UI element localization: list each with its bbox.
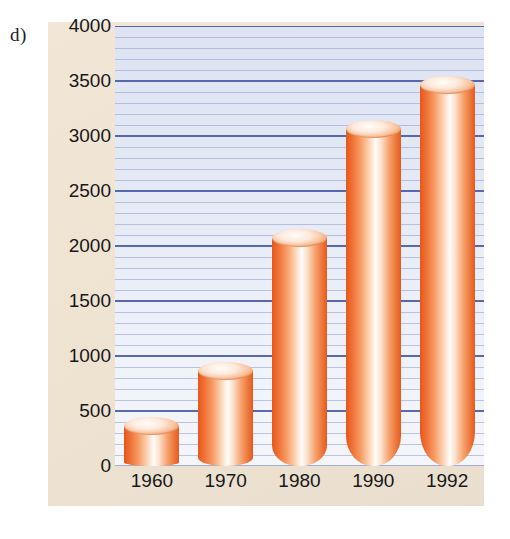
- x-axis-tick-labels: 19601970198019901992: [115, 470, 484, 502]
- y-axis-tick-label: 1500: [69, 290, 111, 312]
- x-axis-tick-label: 1980: [278, 470, 320, 492]
- bar-series: [115, 26, 484, 466]
- panel-label: d): [10, 24, 27, 46]
- y-axis-tick-label: 500: [79, 400, 111, 422]
- y-axis-tick-label: 2000: [69, 235, 111, 257]
- y-axis-tick-label: 3500: [69, 70, 111, 92]
- y-axis-tick-labels: 05001000150020002500300035004000: [48, 22, 115, 506]
- x-axis-tick-label: 1960: [131, 470, 173, 492]
- y-axis-tick-label: 4000: [69, 15, 111, 37]
- x-axis-tick-label: 1990: [352, 470, 394, 492]
- y-axis-tick-label: 2500: [69, 180, 111, 202]
- bar-1990: [346, 120, 401, 466]
- bar-1960: [124, 417, 179, 466]
- bar-1992: [420, 76, 475, 466]
- bar-1980: [272, 229, 327, 466]
- y-axis-tick-label: 3000: [69, 125, 111, 147]
- figure-chart-d: d) 05001000150020002500300035004000 1960…: [0, 0, 510, 539]
- x-axis-tick-label: 1992: [426, 470, 468, 492]
- y-axis-tick-label: 1000: [69, 345, 111, 367]
- bar-body: [198, 371, 253, 466]
- bar-body: [420, 85, 475, 466]
- bar-1970: [198, 362, 253, 466]
- bar-body: [272, 238, 327, 466]
- y-axis-tick-label: 0: [100, 455, 111, 477]
- bar-body: [346, 129, 401, 466]
- x-axis-tick-label: 1970: [205, 470, 247, 492]
